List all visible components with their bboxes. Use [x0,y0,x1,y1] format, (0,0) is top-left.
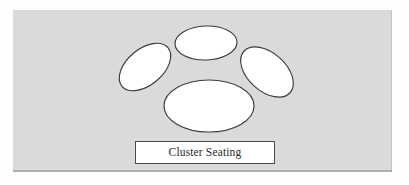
page-canvas: Cluster Seating [0,0,409,185]
caption-box: Cluster Seating [135,141,275,164]
cluster-seating-diagram-panel: Cluster Seating [13,10,392,172]
caption-label: Cluster Seating [169,147,242,159]
table-top-center [174,25,237,61]
table-bottom-center [164,80,254,132]
table-left [110,34,179,100]
